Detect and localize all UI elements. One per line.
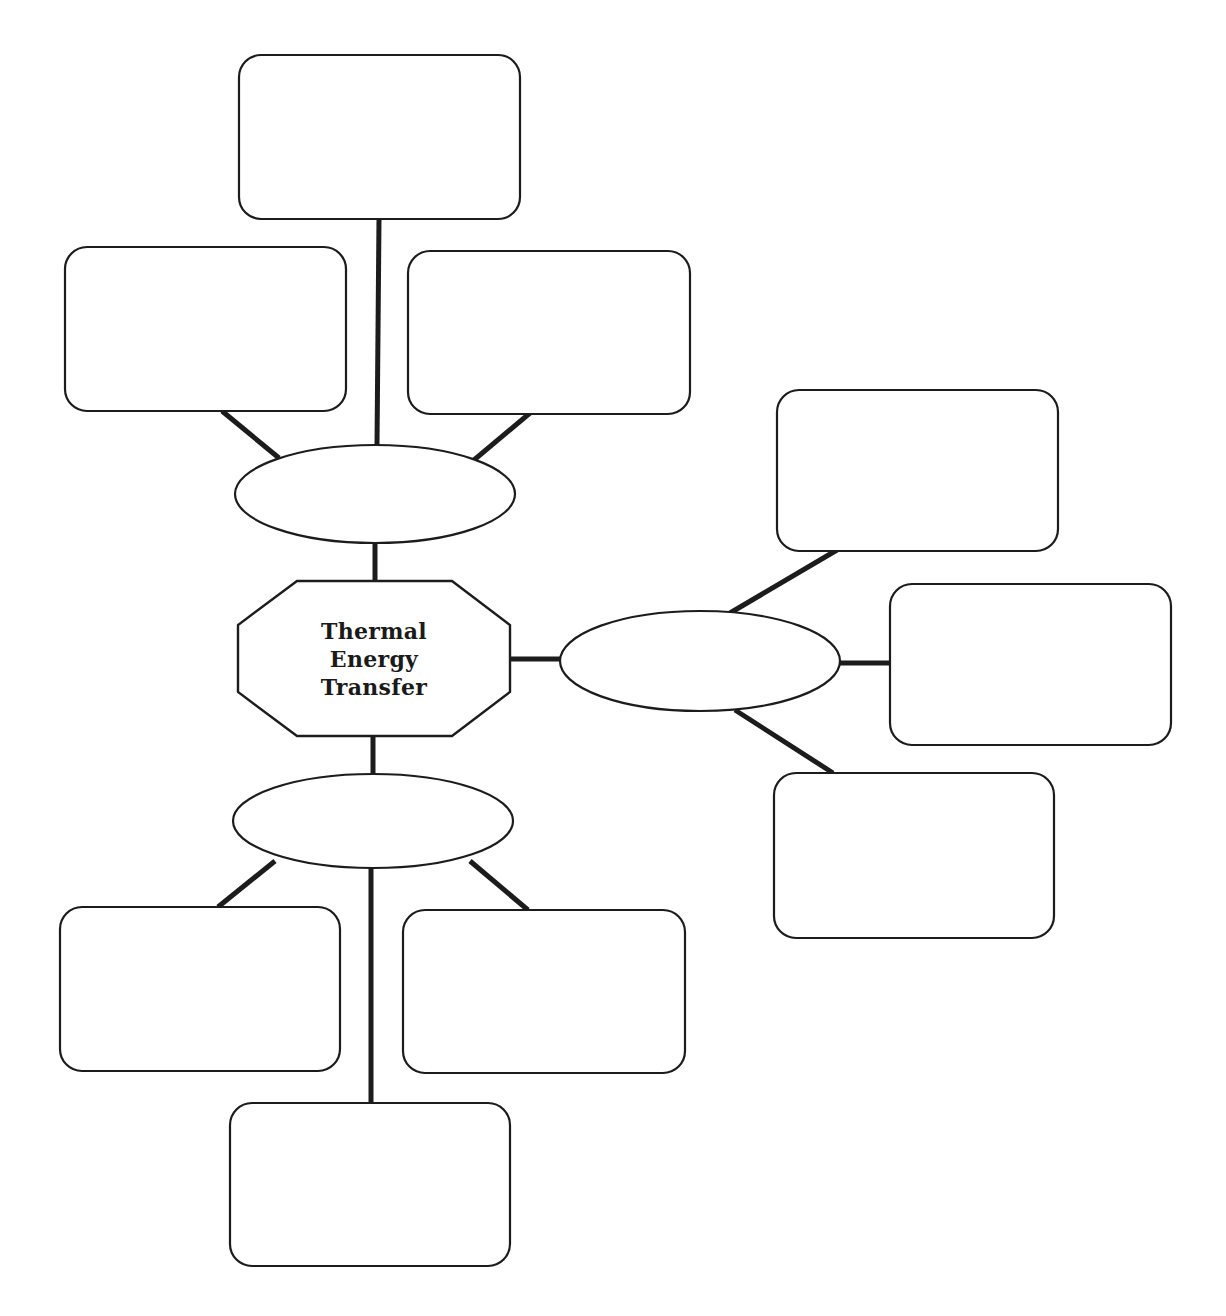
connector-line xyxy=(470,861,528,910)
concept-map xyxy=(0,0,1226,1316)
center-octagon xyxy=(238,581,510,736)
leaf-box-top-left xyxy=(65,247,346,411)
leaf-box-bottom-left xyxy=(60,907,340,1071)
leaf-box-right-top xyxy=(777,390,1058,551)
connector-line xyxy=(730,550,837,613)
connector-line xyxy=(218,861,275,907)
leaf-box-right-middle xyxy=(890,584,1171,745)
leaf-box-top-right xyxy=(408,251,690,414)
branch-ellipse-bottom xyxy=(233,774,513,868)
branch-ellipse-top xyxy=(235,445,515,543)
connector-line xyxy=(474,413,530,460)
leaf-box-top-top xyxy=(239,55,520,219)
connector-line xyxy=(222,411,279,458)
connector-line xyxy=(735,710,833,773)
leaf-box-bottom-bottom xyxy=(230,1103,510,1266)
branch-ellipse-right xyxy=(560,611,840,711)
leaf-box-bottom-right xyxy=(403,910,685,1073)
connector-line xyxy=(377,219,379,445)
leaf-box-right-bottom xyxy=(774,773,1054,938)
